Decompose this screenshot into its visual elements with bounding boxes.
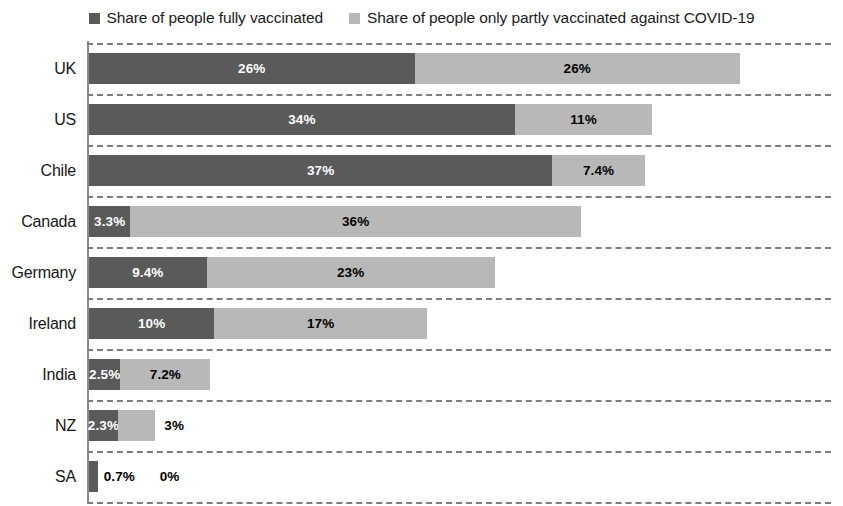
legend-swatch-partly-icon xyxy=(349,13,360,24)
table-row: India2.5%7.2% xyxy=(0,349,843,400)
legend-swatch-fully-icon xyxy=(89,13,100,24)
stacked-bar: 0.7%0% xyxy=(89,461,98,492)
legend-label: Share of people only partly vaccinated a… xyxy=(367,10,754,26)
category-label-uk: UK xyxy=(0,43,76,94)
bar-segment-fully-vaccinated[interactable]: 34% xyxy=(89,104,515,135)
bar-segment-partly-vaccinated[interactable]: 17% xyxy=(214,308,427,339)
bar-value-label: 10% xyxy=(138,317,165,331)
category-label-ireland: Ireland xyxy=(0,298,76,349)
table-row: Germany9.4%23% xyxy=(0,247,843,298)
bar-value-label: 7.2% xyxy=(150,368,181,382)
bar-value-label: 2.5% xyxy=(89,368,120,382)
category-label-us: US xyxy=(0,94,76,145)
category-label-nz: NZ xyxy=(0,400,76,451)
bar-segment-partly-vaccinated[interactable]: 3% xyxy=(118,410,156,441)
table-row: Chile37%7.4% xyxy=(0,145,843,196)
category-label-india: India xyxy=(0,349,76,400)
bar-value-label: 0% xyxy=(160,470,180,484)
category-label-chile: Chile xyxy=(0,145,76,196)
table-row: Ireland10%17% xyxy=(0,298,843,349)
bar-value-label: 9.4% xyxy=(132,266,163,280)
gridline xyxy=(87,502,831,504)
bar-segment-partly-vaccinated[interactable]: 26% xyxy=(415,53,741,84)
bar-value-label: 7.4% xyxy=(583,164,614,178)
bar-value-label: 36% xyxy=(342,215,369,229)
table-row: NZ2.3%3% xyxy=(0,400,843,451)
stacked-bar: 2.3%3% xyxy=(89,410,155,441)
bar-value-label: 37% xyxy=(307,164,334,178)
legend-entry-partly: Share of people only partly vaccinated a… xyxy=(349,10,754,26)
category-label-sa: SA xyxy=(0,451,76,502)
stacked-bar: 37%7.4% xyxy=(89,155,645,186)
stacked-bar: 3.3%36% xyxy=(89,206,581,237)
bar-value-label: 3.3% xyxy=(94,215,125,229)
category-label-canada: Canada xyxy=(0,196,76,247)
bar-value-label: 3% xyxy=(164,419,184,433)
stacked-bar: 2.5%7.2% xyxy=(89,359,210,390)
bar-segment-fully-vaccinated[interactable]: 26% xyxy=(89,53,415,84)
table-row: SA0.7%0% xyxy=(0,451,843,502)
bar-value-label: 2.3% xyxy=(88,419,119,433)
bar-segment-partly-vaccinated[interactable]: 11% xyxy=(515,104,653,135)
bar-segment-fully-vaccinated[interactable]: 37% xyxy=(89,155,552,186)
bar-segment-partly-vaccinated[interactable]: 7.2% xyxy=(120,359,210,390)
table-row: Canada3.3%36% xyxy=(0,196,843,247)
table-row: US34%11% xyxy=(0,94,843,145)
bar-segment-fully-vaccinated[interactable]: 2.5% xyxy=(89,359,120,390)
bar-segment-partly-vaccinated[interactable]: 36% xyxy=(130,206,581,237)
stacked-bar: 9.4%23% xyxy=(89,257,495,288)
category-label-germany: Germany xyxy=(0,247,76,298)
bar-segment-fully-vaccinated[interactable]: 9.4% xyxy=(89,257,207,288)
chart-plot-area: UK26%26%US34%11%Chile37%7.4%Canada3.3%36… xyxy=(0,36,843,506)
bar-segment-fully-vaccinated[interactable]: 10% xyxy=(89,308,214,339)
stacked-bar: 10%17% xyxy=(89,308,427,339)
bar-value-label: 26% xyxy=(238,62,265,76)
stacked-bar: 26%26% xyxy=(89,53,740,84)
bar-value-label: 17% xyxy=(307,317,334,331)
bar-segment-fully-vaccinated[interactable]: 0.7% xyxy=(89,461,98,492)
bar-segment-fully-vaccinated[interactable]: 3.3% xyxy=(89,206,130,237)
chart-legend: Share of people fully vaccinatedShare of… xyxy=(0,0,843,36)
bar-segment-partly-vaccinated[interactable]: 7.4% xyxy=(552,155,645,186)
bar-segment-partly-vaccinated[interactable]: 23% xyxy=(207,257,495,288)
table-row: UK26%26% xyxy=(0,43,843,94)
bar-value-label: 23% xyxy=(337,266,364,280)
bar-value-label: 26% xyxy=(564,62,591,76)
bar-value-label: 0.7% xyxy=(104,470,135,484)
legend-entry-fully: Share of people fully vaccinated xyxy=(89,10,324,26)
bar-value-label: 34% xyxy=(288,113,315,127)
bar-value-label: 11% xyxy=(570,113,597,127)
stacked-bar: 34%11% xyxy=(89,104,652,135)
legend-label: Share of people fully vaccinated xyxy=(107,10,324,26)
bar-segment-fully-vaccinated[interactable]: 2.3% xyxy=(89,410,118,441)
